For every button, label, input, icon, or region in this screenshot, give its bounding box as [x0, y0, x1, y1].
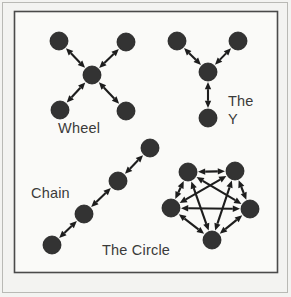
node-y_tr [229, 32, 247, 50]
node-c3 [109, 172, 127, 190]
node-c1 [43, 236, 61, 254]
node-y_c [199, 63, 217, 81]
node-w_tr [117, 33, 135, 51]
network-label-line: The [228, 93, 254, 109]
network-label-chain: Chain [31, 185, 70, 201]
node-p_r [241, 200, 259, 218]
node-w_c [83, 66, 101, 84]
node-y_tl [168, 32, 186, 50]
network-label-the-circle: The Circle [102, 242, 170, 258]
diagram-canvas: WheelTheYChainThe Circle [0, 0, 291, 297]
network-label-wheel: Wheel [58, 120, 100, 136]
node-y_b [199, 109, 217, 127]
node-w_bl [51, 101, 69, 119]
network-label-line: Y [228, 111, 238, 127]
edge-line-the-circle [188, 208, 233, 209]
node-p_b [203, 231, 221, 249]
node-p_l [162, 199, 180, 217]
network-diagram-figure: WheelTheYChainThe Circle [0, 0, 291, 297]
node-c4 [141, 139, 159, 157]
node-c2 [75, 205, 93, 223]
node-w_br [117, 102, 135, 120]
node-w_tl [50, 32, 68, 50]
node-p_tl [179, 163, 197, 181]
node-p_tr [226, 162, 244, 180]
